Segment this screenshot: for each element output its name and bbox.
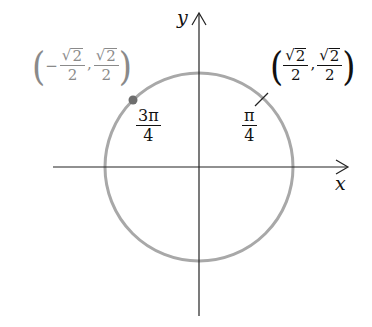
- sqrt-icon: √: [96, 48, 106, 63]
- three-pi-over-4-point: [129, 96, 138, 105]
- y-denominator: 2: [102, 66, 112, 83]
- unit-circle-diagram: y x π 4 3π 4 ( √2 2 , √2 2 ) ( − √2 2: [0, 0, 372, 327]
- sqrt-icon: √: [285, 48, 295, 63]
- open-paren: (: [270, 46, 283, 85]
- x-denominator: 2: [68, 66, 78, 83]
- x-radicand: 2: [71, 48, 83, 64]
- minus-sign: −: [45, 57, 58, 75]
- y-denominator: 2: [325, 66, 335, 83]
- angle-denominator: 4: [244, 126, 254, 144]
- angle-numerator: π: [242, 108, 257, 126]
- angle-label-pi-over-4: π 4: [242, 108, 257, 144]
- x-axis-label: x: [335, 172, 346, 194]
- close-paren: ): [119, 46, 132, 85]
- y-radicand: 2: [329, 48, 341, 64]
- coordinate-label-second-quadrant: ( − √2 2 , √2 2 ): [32, 48, 132, 83]
- angle-label-3pi-over-4: 3π 4: [136, 108, 161, 144]
- close-paren: ): [342, 46, 355, 85]
- y-radicand: 2: [105, 48, 117, 64]
- comma: ,: [87, 55, 92, 83]
- angle-denominator: 4: [143, 126, 153, 144]
- y-axis-label: y: [177, 6, 188, 28]
- open-paren: (: [32, 46, 45, 85]
- x-radicand: 2: [295, 48, 307, 64]
- angle-numerator: 3π: [136, 108, 161, 126]
- sqrt-icon: √: [62, 48, 72, 63]
- coordinate-label-first-quadrant: ( √2 2 , √2 2 ): [270, 48, 356, 83]
- comma: ,: [310, 55, 315, 83]
- sqrt-icon: √: [319, 48, 329, 63]
- x-denominator: 2: [291, 66, 301, 83]
